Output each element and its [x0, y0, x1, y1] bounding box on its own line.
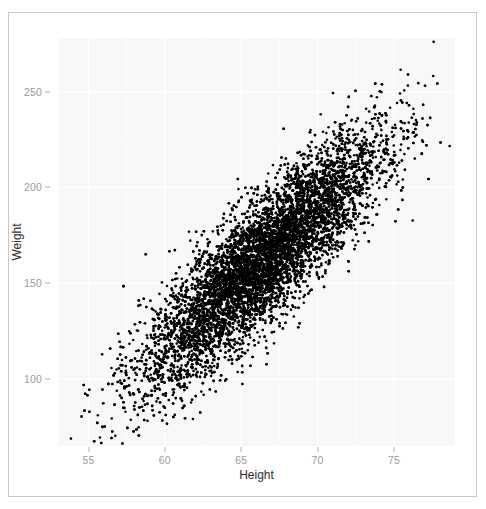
y-axis-title-text: Weight	[10, 223, 24, 260]
y-tick-mark	[45, 187, 50, 188]
y-tick-label: 250	[24, 86, 42, 98]
x-axis-title: Height	[58, 468, 455, 482]
plot-panel	[58, 38, 455, 446]
x-tick-label: 70	[312, 454, 324, 466]
y-tick-mark	[45, 378, 50, 379]
y-tick-label: 100	[24, 373, 42, 385]
x-axis: 5560657075	[58, 446, 455, 470]
y-tick-mark	[45, 91, 50, 92]
y-tick-label: 200	[24, 181, 42, 193]
x-tick-mark	[393, 447, 394, 452]
y-tick-label: 150	[24, 277, 42, 289]
scatter-plot-figure: 100150200250 Weight 5560657075 Height	[0, 0, 486, 509]
x-tick-mark	[317, 447, 318, 452]
x-tick-mark	[88, 447, 89, 452]
x-tick-mark	[164, 447, 165, 452]
x-tick-label: 60	[159, 454, 171, 466]
x-tick-label: 55	[82, 454, 94, 466]
scatter-points-layer	[58, 38, 455, 446]
x-tick-mark	[241, 447, 242, 452]
y-axis-title: Weight	[8, 38, 26, 446]
y-tick-mark	[45, 283, 50, 284]
x-tick-label: 75	[388, 454, 400, 466]
x-tick-label: 65	[235, 454, 247, 466]
